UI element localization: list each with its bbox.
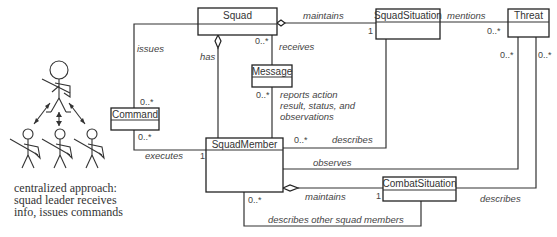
label-has: has [200, 51, 216, 62]
class-threat[interactable]: Threat [508, 9, 549, 37]
class-combat-situation[interactable]: CombatSituation [383, 177, 457, 201]
squad-member-figures-icon [10, 129, 104, 168]
class-command-name: Command [112, 109, 158, 120]
mult-combatsituation-one: 1 [376, 191, 381, 201]
aggregation-diamond-icon [215, 35, 221, 48]
mult-squadmember-describes: 0..* [294, 135, 308, 145]
mult-squadsituation-one: 1 [368, 26, 373, 36]
association-squad-issues-command [134, 24, 198, 108]
uml-diagram: centralized approach: squad leader recei… [0, 0, 557, 237]
communication-arrows-icon [34, 103, 85, 126]
class-command[interactable]: Command [111, 108, 159, 130]
label-receives: receives [279, 41, 315, 52]
class-squad-member[interactable]: SquadMember [206, 138, 283, 192]
mult-command-top: 0..* [140, 97, 154, 107]
label-observes: observes [313, 157, 352, 168]
squad-leader-figure-icon [42, 61, 71, 112]
label-describes-right: describes [480, 193, 521, 204]
mult-squadmember-executes: 1 [200, 151, 205, 161]
mult-squadmember-bottom: 0..* [248, 195, 262, 205]
aggregation-diamond-icon [283, 185, 298, 191]
class-squad[interactable]: Squad [198, 8, 277, 35]
class-squad-situation-name: SquadSituation [374, 10, 442, 21]
class-squad-member-name: SquadMember [212, 139, 278, 150]
class-message-name: Message [252, 66, 293, 77]
label-describes-other-members: describes other squad members [268, 214, 404, 225]
association-combat-describes-threat [456, 37, 536, 188]
mult-message-bottom: 0..* [256, 90, 270, 100]
mult-threat-mentions: 0..* [487, 26, 501, 36]
class-squad-name: Squad [223, 10, 252, 21]
label-issues: issues [137, 43, 164, 54]
class-threat-name: Threat [514, 10, 543, 21]
mult-threat-right: 0..* [538, 50, 552, 60]
aggregation-diamond-icon [277, 20, 285, 26]
class-squad-situation[interactable]: SquadSituation [374, 9, 442, 39]
mult-threat-left: 0..* [500, 50, 514, 60]
label-mentions: mentions [447, 10, 486, 21]
label-reports-line-2: result, status, and [280, 100, 356, 111]
mult-squad-receives: 0..* [255, 36, 269, 46]
label-reports-line-3: observations [280, 111, 334, 122]
label-reports-line-1: reports action [280, 89, 338, 100]
caption-line-3: info, issues commands [14, 205, 123, 219]
class-message[interactable]: Message [252, 65, 293, 87]
label-executes: executes [145, 150, 183, 161]
class-combat-situation-name: CombatSituation [383, 178, 457, 189]
label-describes-mid: describes [332, 134, 373, 145]
label-maintains-bottom: maintains [305, 191, 346, 202]
mult-command-bottom: 0..* [138, 132, 152, 142]
label-maintains-top: maintains [303, 10, 344, 21]
